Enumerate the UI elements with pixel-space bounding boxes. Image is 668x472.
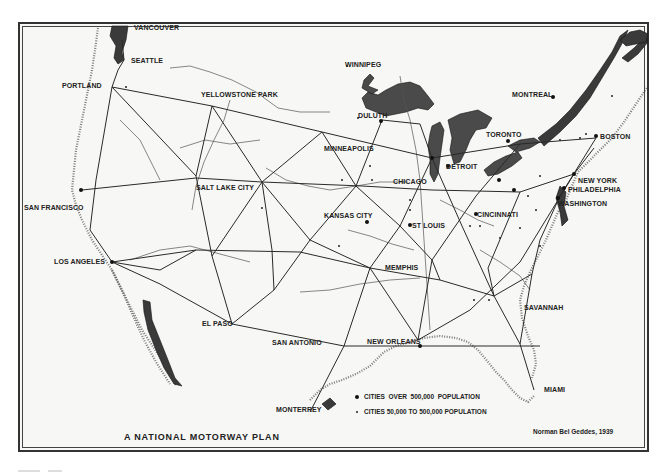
label-chicago: CHICAGO [393,178,427,185]
legend-small-dot-icon [356,411,358,413]
label-washington: WASHINGTON [558,200,607,207]
puget-sound [110,26,128,64]
map-credit: Norman Bel Geddes, 1939 [533,428,614,436]
label-miami: MIAMI [544,386,565,393]
label-san-francisco: SAN FRANCISCO [24,204,84,211]
legend: CITIES OVER 500,000 POPULATION CITIES 50… [355,393,487,416]
label-philadelphia: PHILADELPHIA [568,186,621,193]
lake-winnipeg-rivers [362,74,378,94]
label-duluth: DULUTH [358,112,387,119]
label-los-angeles: LOS ANGELES [54,258,105,265]
label-st-louis: ST LOUIS [412,222,445,229]
label-kansas-city: KANSAS CITY [324,212,373,219]
label-memphis: MEMPHIS [385,264,419,271]
label-toronto: TORONTO [486,131,522,138]
caption-fragment [18,460,78,472]
label-montreal: MONTREAL [512,91,553,98]
motorway-map: VANCOUVER SEATTLE PORTLAND YELLOWSTONE P… [0,0,668,472]
label-savannah: SAVANNAH [524,304,563,311]
label-portland: PORTLAND [62,82,102,89]
label-new-york: NEW YORK [578,177,617,184]
baja-peninsula [143,300,182,386]
label-monterrey: MONTERREY [276,406,322,413]
label-boston: BOSTON [600,133,630,140]
legend-large-label: CITIES OVER 500,000 POPULATION [364,393,480,401]
label-seattle: SEATTLE [131,57,163,64]
label-detroit: DETROIT [446,163,478,170]
label-new-orleans: NEW ORLEANS [367,338,421,345]
legend-large-dot-icon [355,395,359,399]
legend-small-label: CITIES 50,000 TO 500,000 POPULATION [364,408,487,416]
label-vancouver: VANCOUVER [134,24,179,31]
label-salt-lake-city: SALT LAKE CITY [196,184,254,191]
st-lawrence-river [538,30,628,146]
city-labels: VANCOUVER SEATTLE PORTLAND YELLOWSTONE P… [24,24,630,413]
label-el-paso: EL PASO [202,320,233,327]
map-title: A NATIONAL MOTORWAY PLAN [124,432,280,442]
atlantic-coastline [520,86,648,378]
lake-superior [362,82,434,116]
label-minneapolis: MINNEAPOLIS [324,145,374,152]
label-cincinnati: CINCINNATI [477,211,518,218]
rivers [120,66,530,330]
label-san-antonio: SAN ANTONIO [272,339,322,346]
monterrey-coast [322,398,336,410]
label-winnipeg: WINNIPEG [345,61,382,68]
label-yellowstone-park: YELLOWSTONE PARK [201,91,278,98]
